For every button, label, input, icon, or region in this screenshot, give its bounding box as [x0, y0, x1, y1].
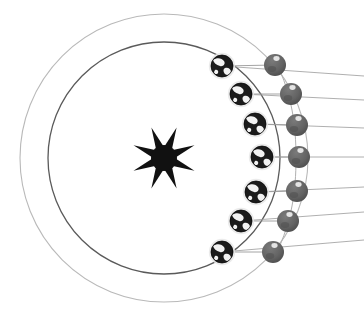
sun-core — [151, 145, 177, 171]
moon-6 — [277, 210, 299, 232]
moon-crater-3 — [290, 126, 298, 132]
moon-crater-6 — [281, 222, 289, 228]
moon-crater-1 — [268, 66, 276, 72]
moon-3 — [286, 114, 308, 136]
earth-3 — [242, 111, 268, 137]
celestial-body-layer — [209, 53, 310, 265]
sight-line-1 — [222, 66, 364, 76]
sight-line-2 — [241, 94, 364, 100]
earth-5 — [243, 179, 269, 205]
moon-7 — [262, 241, 284, 263]
moon-2 — [280, 83, 302, 105]
moon-crater-4 — [292, 158, 300, 164]
earth-1 — [209, 53, 235, 79]
moon-highlight-2 — [289, 85, 295, 90]
moon-crater-2 — [284, 95, 292, 101]
earth-7 — [209, 239, 235, 265]
moon-highlight-7 — [271, 243, 277, 248]
moon-4 — [288, 146, 310, 168]
earth-4 — [249, 144, 275, 170]
moon-highlight-1 — [273, 56, 279, 61]
moon-highlight-4 — [297, 148, 303, 153]
moon-crater-7 — [266, 253, 274, 259]
earth-6 — [228, 208, 254, 234]
sun — [134, 128, 195, 189]
moon-highlight-5 — [295, 182, 301, 187]
diagram-root — [0, 0, 364, 316]
sun-layer — [134, 128, 195, 189]
orbit-diagram-canvas — [0, 0, 364, 316]
moon-highlight-3 — [295, 116, 301, 121]
moon-crater-5 — [290, 192, 298, 198]
moon-5 — [286, 180, 308, 202]
sight-line-6 — [241, 212, 364, 221]
moon-highlight-6 — [286, 212, 292, 217]
moon-1 — [264, 54, 286, 76]
earth-2 — [228, 81, 254, 107]
